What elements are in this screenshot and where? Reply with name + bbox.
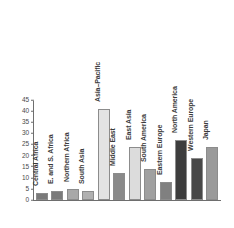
bar-category-label: South America: [140, 114, 147, 162]
bar: [144, 169, 156, 200]
bar-category-label: Middle East: [109, 129, 116, 167]
bar-category-label: Japan: [202, 120, 209, 140]
bar-category-label: Eastern Europe: [156, 125, 163, 175]
y-axis-tick-label: 45: [22, 97, 29, 104]
bar: [82, 191, 94, 200]
bar-category-label: South Asia: [78, 149, 85, 184]
bar-group: South Asia: [82, 100, 94, 200]
bar-group: Western Europe: [191, 100, 203, 200]
bar: [113, 173, 125, 200]
y-axis-tick: 5: [25, 186, 34, 193]
plot-area: 051015202530354045 Central AfricaE. and …: [34, 100, 220, 200]
bar-group: E. and S. Africa: [51, 100, 63, 200]
y-axis-tick-label: 10: [22, 175, 29, 182]
bar-group: South America: [144, 100, 156, 200]
y-axis-tick: 40: [22, 108, 34, 115]
bar-category-label: North America: [171, 86, 178, 133]
y-axis-tick-label: 20: [22, 152, 29, 159]
bar-category-label: Asia–Pacific: [94, 62, 101, 102]
bar-category-label: East Asia: [125, 109, 132, 139]
bar: [160, 182, 172, 200]
bar: [67, 189, 79, 200]
y-axis-tick-label: 15: [22, 163, 29, 170]
bar-series: Central AfricaE. and S. AfricaNorthern A…: [34, 100, 220, 200]
y-axis-tick: 35: [22, 119, 34, 126]
y-axis-tick-label: 25: [22, 141, 29, 148]
bar-group: Japan: [206, 100, 218, 200]
y-axis-tick: 30: [22, 130, 34, 137]
bar: [191, 158, 203, 200]
bar: [175, 140, 187, 200]
x-axis-line: [33, 200, 221, 201]
y-axis-tick-label: 30: [22, 130, 29, 137]
y-axis-tick-label: 40: [22, 108, 29, 115]
bar: [206, 147, 218, 200]
bar: [51, 191, 63, 200]
bar-group: North America: [175, 100, 187, 200]
bar-category-label: Northern Africa: [63, 132, 70, 182]
y-axis-tick: 0: [25, 197, 34, 204]
bar-category-label: E. and S. Africa: [47, 135, 54, 185]
bar-group: Middle East: [113, 100, 125, 200]
y-axis-tick-label: 5: [25, 186, 29, 193]
y-axis-tick-label: 35: [22, 119, 29, 126]
y-axis-tick-label: 0: [25, 197, 29, 204]
y-axis-tick: 45: [22, 97, 34, 104]
bar-category-label: Western Europe: [187, 99, 194, 151]
bar: [36, 193, 48, 200]
bar-category-label: Central Africa: [32, 142, 39, 186]
bar-chart: 051015202530354045 Central AfricaE. and …: [0, 0, 234, 228]
